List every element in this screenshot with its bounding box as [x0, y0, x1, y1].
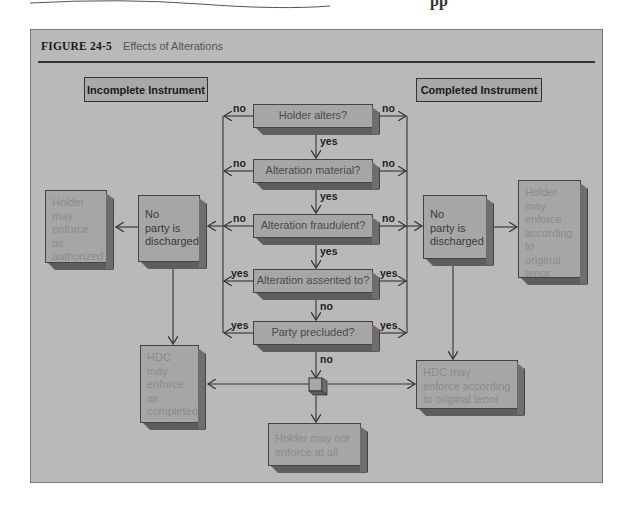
- edge-label: yes: [380, 268, 398, 279]
- outcome-text: Holder may enforce according to original…: [519, 181, 580, 281]
- decision-alteration-material: Alteration material?: [253, 159, 373, 183]
- decision-alteration-fraudulent: Alteration fraudulent?: [253, 214, 373, 238]
- edge-label: no: [382, 158, 395, 169]
- completed-instrument-label: Completed Instrument: [416, 78, 542, 102]
- outcome-hdc-enforce-original-tenor: HDC may enforce according to original te…: [416, 360, 518, 409]
- outcome-holder-may-not-enforce: Holder may not enforce at all: [268, 423, 361, 466]
- outcome-text: No party is discharged: [139, 196, 199, 249]
- outcome-text: No party is discharged: [424, 196, 486, 249]
- decision-text: Alteration fraudulent?: [261, 219, 366, 233]
- outcome-text: HDC may enforce according to original te…: [417, 361, 517, 407]
- edge-label: no: [320, 301, 333, 312]
- decision-text: Alteration assented to?: [257, 274, 370, 288]
- edge-label: yes: [320, 191, 338, 202]
- edge-label: yes: [320, 136, 338, 147]
- edge-label: no: [382, 213, 395, 224]
- edge-label: yes: [231, 268, 249, 279]
- outcome-hdc-enforce-completed: HDC may enforce as completed: [140, 345, 199, 423]
- outcome-text: Holder may not enforce at all: [269, 424, 360, 459]
- edge-label: yes: [380, 320, 398, 331]
- decision-holder-alters: Holder alters?: [253, 104, 373, 128]
- decision-party-precluded: Party precluded?: [253, 321, 373, 345]
- edge-label: yes: [320, 246, 338, 257]
- outcome-left-no-party-discharged: No party is discharged: [138, 195, 200, 262]
- edge-label: no: [233, 158, 246, 169]
- junction-node: [309, 378, 327, 395]
- edge-label: yes: [231, 320, 249, 331]
- decision-text: Alteration material?: [266, 164, 361, 178]
- edge-label: no: [320, 354, 333, 365]
- decision-alteration-assented: Alteration assented to?: [253, 269, 373, 293]
- outcome-right-no-party-discharged: No party is discharged: [423, 195, 487, 259]
- decision-text: Holder alters?: [279, 109, 347, 123]
- edge-label: no: [233, 213, 246, 224]
- decision-text: Party precluded?: [271, 326, 354, 340]
- outcome-holder-enforce-authorized: Holder may enforce as authorized: [45, 190, 107, 263]
- outcome-text: HDC may enforce as completed: [141, 346, 198, 419]
- edge-label: no: [382, 103, 395, 114]
- edge-label: no: [233, 103, 246, 114]
- incomplete-instrument-label: Incomplete Instrument: [84, 77, 208, 102]
- outcome-holder-enforce-original-tenor: Holder may enforce according to original…: [518, 180, 581, 278]
- outcome-text: Holder may enforce as authorized: [46, 191, 106, 264]
